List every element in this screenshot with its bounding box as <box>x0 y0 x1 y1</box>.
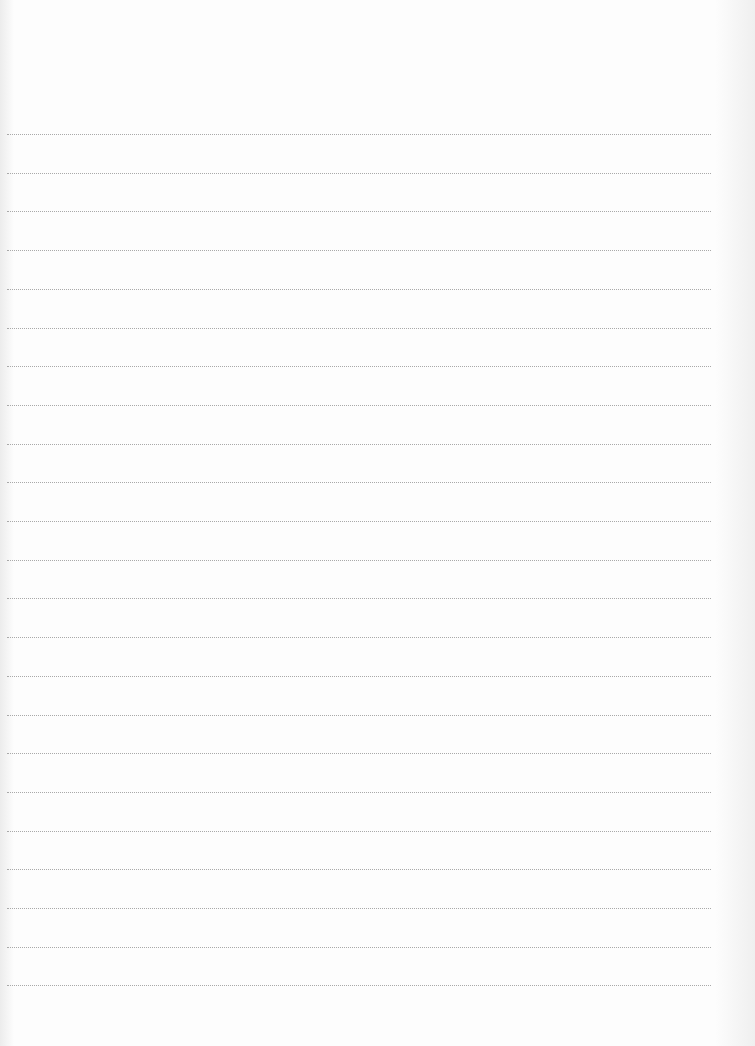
ruled-line <box>7 637 711 638</box>
ruled-line <box>7 560 711 561</box>
ruled-line <box>7 289 711 290</box>
ruled-line <box>7 444 711 445</box>
ruled-line <box>7 715 711 716</box>
ruled-line <box>7 521 711 522</box>
ruled-line <box>7 211 711 212</box>
ruled-line <box>7 134 711 135</box>
ruled-line <box>7 947 711 948</box>
ruled-line <box>7 405 711 406</box>
ruled-line <box>7 482 711 483</box>
ruled-line <box>7 869 711 870</box>
ruled-line <box>7 173 711 174</box>
ruled-line <box>7 831 711 832</box>
ruled-line <box>7 792 711 793</box>
ruled-line <box>7 985 711 986</box>
notebook-page <box>0 0 755 1046</box>
ruled-line <box>7 753 711 754</box>
ruled-line <box>7 908 711 909</box>
ruled-line <box>7 250 711 251</box>
ruled-lines <box>0 0 755 1046</box>
ruled-line <box>7 366 711 367</box>
ruled-line <box>7 676 711 677</box>
ruled-line <box>7 598 711 599</box>
ruled-line <box>7 328 711 329</box>
